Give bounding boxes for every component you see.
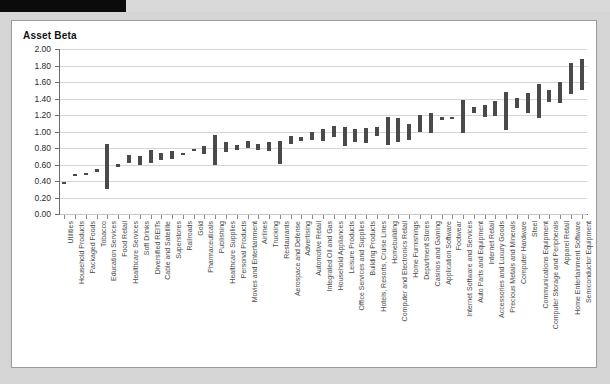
x-axis-category-label: Internet Software and Services [466, 221, 473, 317]
x-axis-tick-mark [506, 215, 507, 219]
range-bar [343, 127, 347, 145]
x-axis-category-label: Home Entertainment Software [574, 221, 581, 315]
range-bar [504, 92, 508, 130]
x-axis-tick-mark [291, 215, 292, 219]
x-axis-category-label: Office Services and Supplies [358, 221, 365, 310]
y-axis-tick-mark [55, 181, 60, 182]
x-axis-category-label: Computer Storage and Peripherals [552, 221, 559, 329]
x-axis-category-label: Building Products [369, 221, 376, 275]
range-bar [170, 151, 174, 158]
x-axis-category-label: Steel [531, 221, 538, 237]
y-axis-tick-label: 1.40 [17, 95, 51, 104]
x-axis-category-label: Soft Drinks [143, 221, 150, 255]
x-axis-tick-mark [312, 215, 313, 219]
range-bar [84, 173, 88, 175]
x-axis-tick-mark [420, 215, 421, 219]
x-axis-tick-mark [269, 215, 270, 219]
range-bar [375, 127, 379, 135]
x-axis-tick-mark [398, 215, 399, 219]
range-bar [569, 63, 573, 94]
range-bar [246, 141, 250, 148]
y-axis-tick-mark [55, 198, 60, 199]
x-axis-tick-mark [107, 215, 108, 219]
x-axis-tick-mark [183, 215, 184, 219]
x-axis-category-label: Computer and Electronics Retail [401, 221, 408, 321]
x-axis-tick-mark [442, 215, 443, 219]
x-axis-tick-mark [172, 215, 173, 219]
x-axis-tick-mark [75, 215, 76, 219]
range-bar [526, 93, 530, 114]
range-bar [418, 115, 422, 132]
x-axis-tick-mark [528, 215, 529, 219]
x-axis-category-label: Home Furnishings [412, 221, 419, 278]
range-bar [181, 153, 185, 155]
range-bar [289, 136, 293, 144]
y-axis-tick-label: 1.80 [17, 62, 51, 71]
x-axis-category-label: Application Software [445, 221, 452, 285]
x-axis-category-label: Healthcare Services [132, 221, 139, 284]
x-axis-category-label: Department Stores [423, 221, 430, 280]
x-axis-tick-mark [258, 215, 259, 219]
x-axis-tick-mark [194, 215, 195, 219]
x-axis-category-label: Computer Hardware [520, 221, 527, 284]
range-bar [547, 90, 551, 102]
range-bar [321, 129, 325, 141]
x-axis-tick-mark [355, 215, 356, 219]
x-axis-category-label: Footwear [455, 221, 462, 250]
range-bar [116, 164, 120, 167]
x-axis-tick-mark [495, 215, 496, 219]
x-axis-category-label: Food Retail [121, 221, 128, 257]
range-bar [95, 169, 99, 171]
x-axis-tick-mark [539, 215, 540, 219]
range-bar [461, 100, 465, 133]
x-axis-tick-mark [474, 215, 475, 219]
range-bar [256, 144, 260, 150]
x-axis-category-label: Auto Parts and Equipment [477, 221, 484, 303]
x-axis-tick-mark [463, 215, 464, 219]
x-axis-tick-mark [345, 215, 346, 219]
range-bar [299, 137, 303, 141]
range-bar [558, 82, 562, 103]
x-axis-category-label: Movies and Entertainment [251, 221, 258, 302]
x-axis-category-label: Apparel Retail [563, 221, 570, 265]
x-axis-tick-mark [118, 215, 119, 219]
y-axis-tick-mark [55, 214, 60, 215]
x-axis-tick-mark [226, 215, 227, 219]
range-bar [332, 126, 336, 138]
range-bar [386, 117, 390, 144]
x-axis-tick-mark [280, 215, 281, 219]
x-axis-tick-mark [161, 215, 162, 219]
gridline [59, 181, 587, 182]
x-axis-category-label: Hotels, Resorts, Cruise Lines [380, 221, 387, 312]
range-bar [429, 113, 433, 134]
y-axis-tick-label: 1.20 [17, 111, 51, 120]
range-bar [310, 132, 314, 140]
y-axis-tick-mark [55, 82, 60, 83]
x-axis-tick-mark [388, 215, 389, 219]
x-axis-category-label: Personal Products [240, 221, 247, 278]
x-axis-tick-mark [377, 215, 378, 219]
x-axis-category-label: Tobacco [100, 221, 107, 247]
x-axis-tick-mark [334, 215, 335, 219]
x-axis-tick-mark [431, 215, 432, 219]
x-axis-category-label: Cable and Satellite [164, 221, 171, 280]
x-axis-category-label: Trucking [272, 221, 279, 248]
x-axis-category-label: Household Appliances [337, 221, 344, 290]
x-axis-category-label: Publishing [218, 221, 225, 253]
range-bar [73, 174, 77, 176]
range-bar [396, 118, 400, 142]
x-axis-tick-mark [366, 215, 367, 219]
x-axis-category-label: Aerospace and Defense [294, 221, 301, 296]
range-bar [537, 84, 541, 118]
x-axis-tick-mark [86, 215, 87, 219]
x-axis-tick-mark [560, 215, 561, 219]
x-axis-category-label: Pharmaceuticals [207, 221, 214, 273]
x-axis-tick-mark [140, 215, 141, 219]
range-bar [353, 129, 357, 142]
y-axis-tick-mark [55, 148, 60, 149]
y-axis-tick-mark [55, 132, 60, 133]
x-axis-category-label: Precious Metals and Minerals [509, 221, 516, 313]
x-axis-tick-mark [204, 215, 205, 219]
x-axis-category-label: Homebuilding [391, 221, 398, 264]
x-axis-category-label: Semiconductor Equipment [585, 221, 592, 303]
